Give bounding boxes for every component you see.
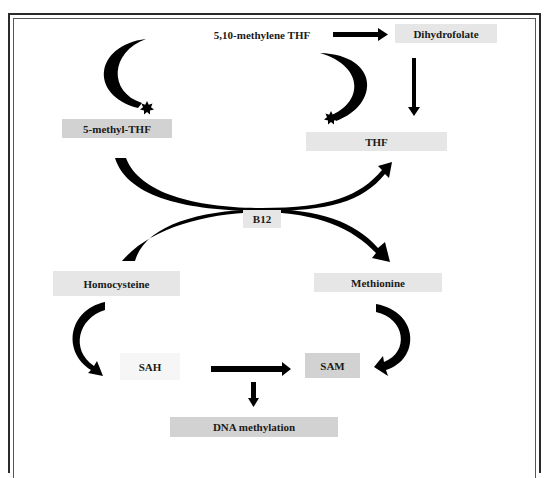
node-dihydrofolate: Dihydrofolate (395, 24, 497, 43)
node-methylene-thf: 5,10-methylene THF (196, 26, 328, 44)
arrow-methionine-to-sam (374, 304, 410, 376)
node-sah: SAH (120, 353, 180, 380)
arrow-methylene-to-dihydrofolate (333, 28, 388, 41)
arrow-homocysteine-to-sah (73, 302, 105, 376)
arrow-to-dna-methylation (248, 382, 259, 407)
node-methionine: Methionine (314, 273, 442, 292)
node-5-methyl-thf: 5-methyl-THF (62, 119, 172, 138)
crescent-arrow-right (320, 53, 367, 125)
node-sam: SAM (305, 353, 360, 378)
crescent-arrow-left (104, 39, 154, 115)
arrow-dihydrofolate-to-thf (408, 58, 420, 116)
node-thf: THF (306, 132, 447, 151)
node-homocysteine: Homocysteine (53, 271, 180, 296)
node-b12: B12 (243, 210, 281, 228)
node-dna-methylation: DNA methylation (170, 417, 338, 437)
arrow-methylthf-to-thf (115, 158, 392, 211)
arrow-sah-to-sam (211, 362, 291, 376)
